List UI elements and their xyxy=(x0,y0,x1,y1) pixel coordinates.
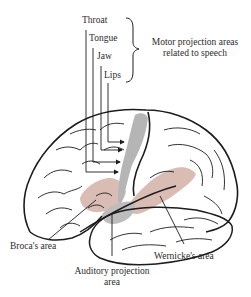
jaw-label: Jaw xyxy=(97,51,112,62)
broca-label: Broca's area xyxy=(10,241,56,252)
tongue-leader-line xyxy=(93,48,120,162)
motor-projection-label-line1: Motor projection areas xyxy=(140,37,250,48)
broca-leader-line xyxy=(48,200,96,240)
wernicke-label: Wernicke's area xyxy=(154,251,214,262)
auditory-label-line1: Auditory projection xyxy=(52,266,172,277)
lips-leader-line xyxy=(108,83,124,142)
motor-projection-label-line2: related to speech xyxy=(140,48,250,59)
brain-diagram: Throat Tongue Jaw Lips Motor projection … xyxy=(0,0,251,297)
tongue-label: Tongue xyxy=(89,33,117,44)
motor-projection-label: Motor projection areas related to speech xyxy=(140,37,250,59)
lips-label: Lips xyxy=(104,70,121,81)
wernicke-leader-line xyxy=(160,196,184,244)
frontal-lower-edge xyxy=(30,216,102,240)
auditory-label: Auditory projection area xyxy=(52,266,172,288)
motor-brace xyxy=(126,18,139,82)
auditory-label-line2: area xyxy=(52,277,172,288)
throat-label: Throat xyxy=(82,15,107,26)
